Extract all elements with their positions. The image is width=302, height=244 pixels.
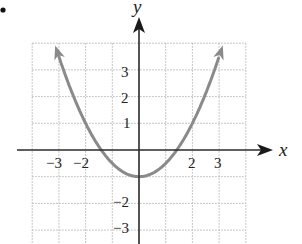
x-tick-label: 3 <box>214 155 222 171</box>
y-tick-label: 3 <box>121 64 129 80</box>
y-tick-label: 2 <box>121 90 129 106</box>
problem-bullet-dot <box>0 7 5 12</box>
x-tick-label: −3 <box>46 155 62 171</box>
y-tick-label: −3 <box>113 220 129 236</box>
y-axis-label: y <box>131 0 142 17</box>
x-axis-label: x <box>278 139 288 160</box>
x-tick-label: 2 <box>188 155 196 171</box>
x-tick-label: −2 <box>73 155 89 171</box>
parabola-graph: x y −3 −2 2 3 3 2 1 −2 −3 <box>0 0 302 244</box>
y-tick-label: −2 <box>113 194 129 210</box>
y-tick-label: 1 <box>123 115 131 131</box>
